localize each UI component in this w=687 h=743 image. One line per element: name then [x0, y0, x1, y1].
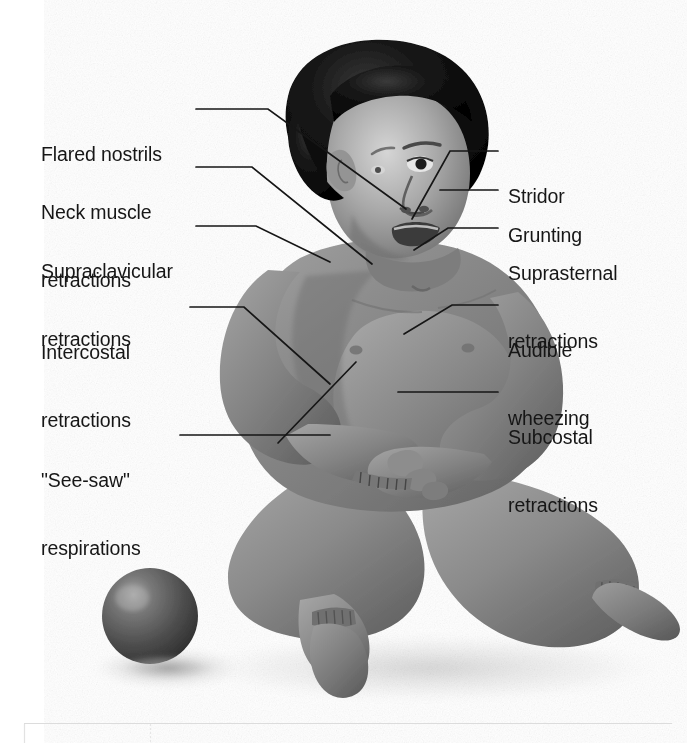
flared-nostril-left [401, 207, 411, 213]
label-line: "See-saw" [41, 469, 141, 492]
label-line: retractions [508, 494, 598, 517]
label-line: Suprasternal [508, 262, 617, 285]
label-line: Intercostal [41, 341, 131, 364]
label-see-saw-respirations: "See-saw" respirations [41, 424, 141, 604]
flared-nostril-right [419, 206, 429, 212]
label-line: Audible [508, 339, 590, 362]
label-line: Supraclavicular [41, 260, 173, 283]
label-line: respirations [41, 537, 141, 560]
respiratory-distress-figure: Flared nostrils Neck muscle retractions … [0, 0, 687, 743]
label-subcostal-retractions: Subcostal retractions [508, 381, 598, 561]
label-line: Subcostal [508, 426, 598, 449]
footer-table [0, 700, 687, 743]
